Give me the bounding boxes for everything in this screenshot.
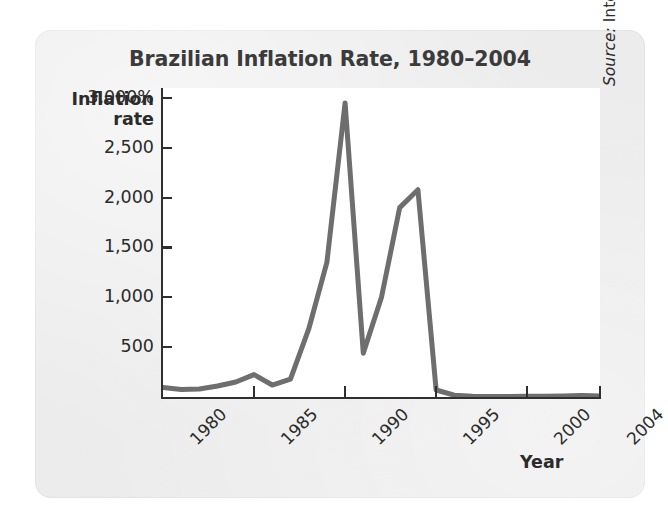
source-note: Source: International Monetary Fund. [601,0,623,88]
source-note-body: International Monetary Fund. [601,0,619,27]
x-tick-label: 1990 [368,404,413,449]
x-tick-label: 1985 [277,404,322,449]
x-tick-label: 2000 [550,404,595,449]
x-axis-title: Year [520,452,563,472]
chart-figure: Brazilian Inflation Rate, 1980–2004 Infl… [0,0,668,522]
x-tick-label: 1980 [186,404,231,449]
x-tick-label: 1995 [459,404,504,449]
source-note-keyword: Source: [601,27,619,86]
x-axis-tick-labels: 198019851990199520002004 [0,0,668,522]
x-tick-label: 2004 [623,404,668,449]
